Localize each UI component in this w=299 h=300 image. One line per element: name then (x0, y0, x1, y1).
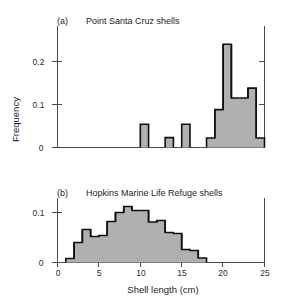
histogram-bar-outline (91, 230, 99, 237)
histogram-bar-outline (149, 211, 157, 223)
figure-container: Frequency (a) Point Santa Cruz shells 0 … (0, 0, 299, 300)
histogram-fill (58, 207, 265, 263)
histogram-bar-outline (182, 234, 190, 251)
histogram-bar-outline (165, 221, 173, 234)
histogram-bar-outline (132, 207, 140, 211)
x-axis-label: Shell length (cm) (98, 284, 228, 295)
histogram-bar-outline (99, 222, 107, 237)
panel-b-histogram (0, 0, 299, 300)
